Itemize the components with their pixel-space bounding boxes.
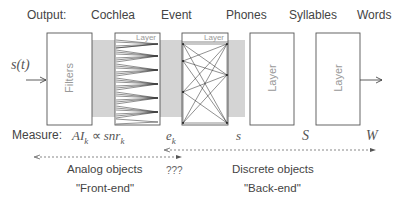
input-arrow-icon [26,77,46,83]
unknown-label: ??? [166,165,183,176]
analog-subtitle: "Front-end" [76,182,134,194]
input-signal-label: s(t) [11,57,30,73]
discrete-subtitle: "Back-end" [244,182,301,194]
measure-words: W [366,128,378,144]
measure-label: Measure: [12,128,62,142]
event-box [182,33,228,125]
syllables-layer-label: Layer [332,58,344,98]
measure-syllables: S [302,128,309,144]
analog-range-arrow-icon [34,155,182,159]
output-arrow-icon [360,77,382,83]
analog-title: Analog objects [67,163,142,175]
measure-phones: s [236,128,241,144]
cochlea-layer-label: Layer [136,33,156,42]
phones-layer-label: Layer [266,58,278,98]
pipeline-diagram [0,0,400,205]
event-layer-label: Layer [204,33,224,42]
filters-label: Filters [63,58,75,98]
measure-event: ek [166,128,176,146]
discrete-range-arrow-icon [164,148,376,152]
measure-cochlea: AIk ∝ snrk [72,128,124,146]
discrete-title: Discrete objects [232,163,314,175]
